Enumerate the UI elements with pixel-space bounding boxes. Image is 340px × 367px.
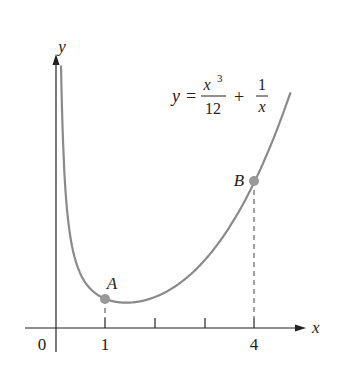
x-ticks — [105, 318, 254, 328]
svg-text:1: 1 — [258, 76, 266, 93]
tick-label-0: 0 — [38, 335, 47, 354]
point-a-label: A — [106, 274, 118, 293]
x-axis-label: x — [311, 318, 320, 337]
x-axis-arrow-icon — [295, 325, 306, 332]
svg-text:y: y — [170, 86, 180, 106]
svg-text:x: x — [257, 98, 265, 115]
tick-label-4: 4 — [250, 335, 259, 354]
equation-label: y = x 3 12 + 1 x — [170, 72, 268, 117]
y-axis-label: y — [56, 37, 66, 56]
svg-text:3: 3 — [217, 72, 223, 84]
svg-text:x: x — [202, 76, 210, 93]
point-a — [100, 294, 110, 304]
chart-canvas: y x 0 1 4 A B y = x 3 12 + 1 x — [0, 0, 340, 367]
point-b — [249, 176, 259, 186]
svg-text:12: 12 — [205, 100, 221, 117]
svg-text:+: + — [234, 87, 244, 107]
tick-label-1: 1 — [101, 335, 110, 354]
svg-text:=: = — [186, 86, 196, 106]
point-b-label: B — [234, 171, 245, 190]
